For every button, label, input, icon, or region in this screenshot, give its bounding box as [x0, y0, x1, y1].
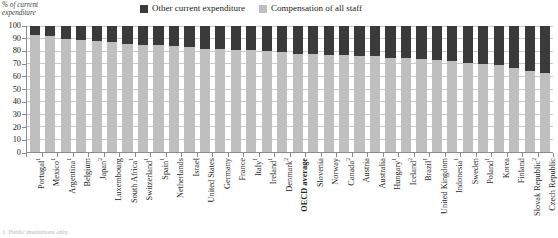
- bar-segment-compensation-of-all-staff[interactable]: [215, 49, 225, 152]
- stacked-bar[interactable]: [385, 26, 395, 152]
- stacked-bar[interactable]: [138, 26, 148, 152]
- bar-segment-other-current-expenditure[interactable]: [107, 26, 117, 42]
- bar-slot[interactable]: [259, 26, 274, 152]
- stacked-bar[interactable]: [153, 26, 163, 152]
- bar-segment-compensation-of-all-staff[interactable]: [540, 73, 550, 152]
- stacked-bar[interactable]: [76, 26, 86, 152]
- stacked-bar[interactable]: [509, 26, 519, 152]
- bar-segment-other-current-expenditure[interactable]: [432, 26, 442, 60]
- bar-slot[interactable]: [120, 26, 135, 152]
- bar-slot[interactable]: [429, 26, 444, 152]
- bar-segment-other-current-expenditure[interactable]: [463, 26, 473, 63]
- stacked-bar[interactable]: [231, 26, 241, 152]
- bar-slot[interactable]: [383, 26, 398, 152]
- stacked-bar[interactable]: [45, 26, 55, 152]
- bar-segment-other-current-expenditure[interactable]: [153, 26, 163, 45]
- stacked-bar[interactable]: [401, 26, 411, 152]
- bar-segment-compensation-of-all-staff[interactable]: [293, 54, 303, 152]
- bar-segment-compensation-of-all-staff[interactable]: [370, 56, 380, 152]
- stacked-bar[interactable]: [354, 26, 364, 152]
- bar-segment-compensation-of-all-staff[interactable]: [385, 58, 395, 153]
- bar-segment-other-current-expenditure[interactable]: [324, 26, 334, 55]
- bar-slot[interactable]: [522, 26, 537, 152]
- stacked-bar[interactable]: [262, 26, 272, 152]
- bar-segment-other-current-expenditure[interactable]: [45, 26, 55, 36]
- bar-segment-other-current-expenditure[interactable]: [354, 26, 364, 56]
- bar-slot[interactable]: [275, 26, 290, 152]
- bar-segment-compensation-of-all-staff[interactable]: [509, 68, 519, 152]
- bar-slot[interactable]: [228, 26, 243, 152]
- bar-segment-other-current-expenditure[interactable]: [401, 26, 411, 58]
- bar-slot[interactable]: [491, 26, 506, 152]
- bar-segment-other-current-expenditure[interactable]: [277, 26, 287, 52]
- bar-segment-other-current-expenditure[interactable]: [169, 26, 179, 46]
- bar-slot[interactable]: [182, 26, 197, 152]
- stacked-bar[interactable]: [277, 26, 287, 152]
- stacked-bar[interactable]: [339, 26, 349, 152]
- bar-segment-compensation-of-all-staff[interactable]: [308, 54, 318, 152]
- bar-segment-compensation-of-all-staff[interactable]: [354, 56, 364, 152]
- bar-slot[interactable]: [290, 26, 305, 152]
- bar-segment-other-current-expenditure[interactable]: [262, 26, 272, 51]
- bar-segment-compensation-of-all-staff[interactable]: [30, 35, 40, 152]
- bar-segment-compensation-of-all-staff[interactable]: [76, 40, 86, 152]
- bar-slot[interactable]: [367, 26, 382, 152]
- bar-segment-other-current-expenditure[interactable]: [339, 26, 349, 55]
- bar-slot[interactable]: [73, 26, 88, 152]
- stacked-bar[interactable]: [92, 26, 102, 152]
- stacked-bar[interactable]: [463, 26, 473, 152]
- bar-segment-other-current-expenditure[interactable]: [385, 26, 395, 58]
- stacked-bar[interactable]: [370, 26, 380, 152]
- bar-slot[interactable]: [166, 26, 181, 152]
- bar-segment-compensation-of-all-staff[interactable]: [447, 61, 457, 152]
- bar-segment-other-current-expenditure[interactable]: [540, 26, 550, 73]
- bar-slot[interactable]: [460, 26, 475, 152]
- stacked-bar[interactable]: [246, 26, 256, 152]
- bar-segment-other-current-expenditure[interactable]: [308, 26, 318, 54]
- stacked-bar[interactable]: [184, 26, 194, 152]
- bar-segment-other-current-expenditure[interactable]: [184, 26, 194, 47]
- bar-segment-compensation-of-all-staff[interactable]: [463, 63, 473, 152]
- stacked-bar[interactable]: [30, 26, 40, 152]
- bar-segment-other-current-expenditure[interactable]: [293, 26, 303, 54]
- bar-segment-other-current-expenditure[interactable]: [200, 26, 210, 49]
- bar-slot[interactable]: [197, 26, 212, 152]
- bar-segment-compensation-of-all-staff[interactable]: [246, 50, 256, 152]
- bar-segment-compensation-of-all-staff[interactable]: [324, 55, 334, 152]
- bar-slot[interactable]: [336, 26, 351, 152]
- bar-segment-compensation-of-all-staff[interactable]: [45, 36, 55, 152]
- bar-slot[interactable]: [104, 26, 119, 152]
- bar-segment-compensation-of-all-staff[interactable]: [339, 55, 349, 152]
- bar-slot[interactable]: [352, 26, 367, 152]
- bar-segment-compensation-of-all-staff[interactable]: [494, 65, 504, 152]
- bar-segment-other-current-expenditure[interactable]: [447, 26, 457, 61]
- bar-segment-other-current-expenditure[interactable]: [494, 26, 504, 65]
- bar-segment-compensation-of-all-staff[interactable]: [478, 64, 488, 152]
- stacked-bar[interactable]: [200, 26, 210, 152]
- stacked-bar[interactable]: [324, 26, 334, 152]
- bar-slot[interactable]: [42, 26, 57, 152]
- bar-slot[interactable]: [305, 26, 320, 152]
- bar-segment-other-current-expenditure[interactable]: [138, 26, 148, 45]
- bar-segment-compensation-of-all-staff[interactable]: [92, 41, 102, 152]
- stacked-bar[interactable]: [215, 26, 225, 152]
- bar-segment-compensation-of-all-staff[interactable]: [416, 59, 426, 152]
- stacked-bar[interactable]: [293, 26, 303, 152]
- stacked-bar[interactable]: [447, 26, 457, 152]
- bar-segment-compensation-of-all-staff[interactable]: [200, 49, 210, 152]
- bar-slot[interactable]: [213, 26, 228, 152]
- bar-slot[interactable]: [151, 26, 166, 152]
- bar-segment-other-current-expenditure[interactable]: [122, 26, 132, 44]
- bar-segment-compensation-of-all-staff[interactable]: [277, 52, 287, 152]
- bar-slot[interactable]: [414, 26, 429, 152]
- bar-segment-compensation-of-all-staff[interactable]: [169, 46, 179, 152]
- bar-segment-compensation-of-all-staff[interactable]: [122, 44, 132, 152]
- bar-segment-compensation-of-all-staff[interactable]: [138, 45, 148, 152]
- bar-slot[interactable]: [476, 26, 491, 152]
- bar-slot[interactable]: [321, 26, 336, 152]
- bar-slot[interactable]: [507, 26, 522, 152]
- stacked-bar[interactable]: [432, 26, 442, 152]
- bar-slot[interactable]: [244, 26, 259, 152]
- bar-segment-compensation-of-all-staff[interactable]: [184, 47, 194, 152]
- bar-segment-other-current-expenditure[interactable]: [92, 26, 102, 41]
